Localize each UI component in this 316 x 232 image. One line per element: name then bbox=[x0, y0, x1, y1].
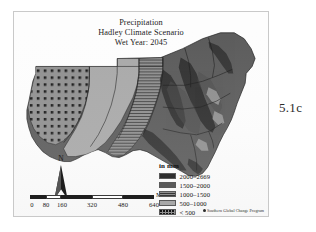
scale-bar-segment bbox=[92, 195, 123, 199]
legend-item-label: < 500 bbox=[180, 209, 196, 216]
legend-item: 1000–1500 bbox=[159, 190, 210, 199]
figure-frame: Precipitation Hadley Climate Scenario We… bbox=[13, 11, 269, 217]
scale-bar-tick: 160 bbox=[57, 201, 67, 208]
legend-swatch-icon bbox=[159, 191, 176, 198]
north-arrow-icon bbox=[50, 165, 72, 196]
scale-bar-segment bbox=[123, 195, 154, 199]
legend-item-label: 2000–2669 bbox=[180, 173, 211, 180]
scale-bar-segment bbox=[46, 195, 62, 199]
legend-item: 500–1000 bbox=[159, 199, 210, 208]
north-arrow: N bbox=[50, 154, 72, 198]
scale-bar-tick: 480 bbox=[118, 201, 128, 208]
legend-swatch-icon bbox=[159, 209, 176, 216]
legend-item: 1500–2000 bbox=[159, 181, 210, 190]
map-credit: Southern Global Change Program bbox=[203, 208, 264, 213]
legend-swatch-icon bbox=[159, 182, 176, 189]
scale-bar-ticks: 0 80 160 320 480 640 bbox=[30, 201, 160, 213]
scale-bar-track bbox=[30, 195, 154, 199]
scale-bar-segment bbox=[61, 195, 92, 199]
scale-bar-tick: 0 bbox=[30, 201, 33, 208]
scale-bar-segment bbox=[30, 195, 46, 199]
scale-bar-tick: 320 bbox=[87, 201, 97, 208]
legend-swatch-icon bbox=[159, 173, 176, 180]
legend-item-label: 500–1000 bbox=[180, 200, 207, 207]
scale-bar: Miles 0 80 160 320 480 640 bbox=[30, 195, 180, 217]
legend-title: in mm bbox=[159, 162, 210, 170]
legend-swatch-icon bbox=[159, 200, 176, 207]
legend-item-label: 1500–2000 bbox=[180, 182, 211, 189]
legend-item: 2000–2669 bbox=[159, 172, 210, 181]
scale-bar-tick: 80 bbox=[43, 201, 50, 208]
figure-label: 5.1c bbox=[279, 100, 302, 116]
north-arrow-label: N bbox=[50, 154, 72, 163]
scale-bar-tick: 640 bbox=[149, 201, 159, 208]
map-credit-text: Southern Global Change Program bbox=[207, 208, 264, 213]
legend-item-label: 1000–1500 bbox=[180, 191, 211, 198]
logo-mark-icon bbox=[203, 209, 206, 212]
